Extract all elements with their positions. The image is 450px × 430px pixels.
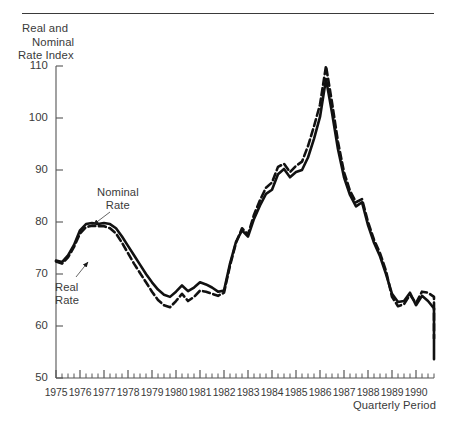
y-axis-tick-label: 100 [20,111,48,123]
x-axis-tick-label: 1984 [260,387,284,398]
plot-area [0,0,450,430]
y-axis-tick-label: 110 [20,59,48,71]
y-axis-title-line-1: Real and [18,22,128,36]
x-axis-tick-label: 1976 [68,387,92,398]
x-axis-tick-label: 1988 [356,387,380,398]
annotation-nominal-line-1: Nominal [97,186,139,199]
top-rule [22,13,434,14]
series-line-nominal-rate [56,79,434,359]
x-axis-tick-label: 1977 [92,387,116,398]
annotation-real-line-2: Rate [55,294,79,307]
x-axis-tick-label: 1978 [116,387,140,398]
annotation-real-line-1: Real [55,281,79,294]
x-axis-tick-label: 1986 [308,387,332,398]
x-axis-tick-label: 1985 [284,387,308,398]
x-axis-tick-label: 1987 [332,387,356,398]
x-axis-tick-label: 1983 [236,387,260,398]
x-axis-title: Quarterly Period [353,399,436,411]
y-axis-tick-label: 70 [20,267,48,279]
annotation-nominal-rate: Nominal Rate [97,186,139,213]
annotation-leaders [76,212,110,277]
x-axis-tick-label: 1982 [212,387,236,398]
x-axis [56,370,434,378]
y-axis-tick-label: 90 [20,163,48,175]
chart-figure: Real and Nominal Rate Index Nominal Rate… [0,0,450,430]
y-axis-tick-label: 50 [20,371,48,383]
x-axis-tick-label: 1981 [188,387,212,398]
x-axis-tick-label: 1980 [164,387,188,398]
annotation-real-rate: Real Rate [55,281,79,308]
x-axis-tick-label: 1990 [404,387,428,398]
y-axis [56,66,63,378]
x-axis-tick-label: 1975 [44,387,68,398]
y-axis-tick-label: 80 [20,215,48,227]
y-axis-title: Real and Nominal Rate Index [18,22,128,63]
y-axis-title-line-2: Nominal [18,36,128,50]
annotation-nominal-line-2: Rate [97,199,139,212]
x-axis-tick-label: 1989 [380,387,404,398]
leader-real [76,262,88,277]
y-axis-tick-label: 60 [20,319,48,331]
x-axis-tick-label: 1979 [140,387,164,398]
